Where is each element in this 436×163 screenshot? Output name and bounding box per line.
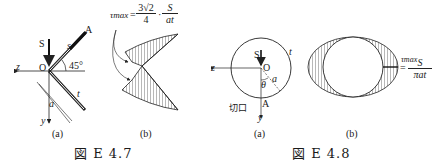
label-angle: 45° bbox=[69, 60, 83, 71]
formula-lhs: τmax bbox=[110, 10, 128, 20]
label-t: t bbox=[77, 88, 80, 99]
panel-label-48a: (a) bbox=[254, 128, 265, 139]
label-t: t bbox=[289, 46, 292, 57]
frac2-num: S bbox=[162, 2, 178, 14]
frac-den: πat bbox=[408, 69, 432, 80]
formula-dot: · bbox=[158, 9, 161, 20]
label-theta: θ bbox=[261, 79, 266, 90]
label-a: a bbox=[272, 73, 277, 84]
formula-frac1: 3√2 4 bbox=[136, 2, 156, 25]
fig47b-diagram bbox=[113, 30, 178, 110]
frac2-den: at bbox=[162, 14, 178, 25]
label-z: z bbox=[211, 62, 215, 73]
formula-frac2: S at bbox=[162, 2, 178, 25]
label-S: S bbox=[254, 49, 260, 60]
formula-eq: = bbox=[400, 62, 406, 73]
label-a: a bbox=[49, 98, 54, 109]
label-S: S bbox=[39, 38, 45, 49]
fig47a-diagram bbox=[18, 32, 86, 123]
label-y: y bbox=[258, 112, 262, 123]
formula-frac: S πat bbox=[408, 57, 432, 80]
formula-eq: = bbox=[130, 9, 136, 20]
panel-label-47b: (b) bbox=[140, 128, 152, 139]
panel-label-48b: (b) bbox=[346, 128, 358, 139]
label-A: A bbox=[262, 98, 269, 109]
fig48a-diagram bbox=[214, 38, 291, 118]
label-O: O bbox=[263, 62, 270, 73]
caption-fig48: 図 E 4.8 bbox=[292, 143, 350, 162]
panel-label-47a: (a) bbox=[52, 128, 63, 139]
label-A: A bbox=[85, 24, 92, 35]
frac1-num: 3√2 bbox=[136, 2, 156, 14]
label-z: z bbox=[16, 61, 20, 72]
frac-num: S bbox=[408, 57, 432, 69]
frac1-den: 4 bbox=[136, 14, 156, 25]
label-O: O bbox=[39, 62, 46, 73]
figure-canvas bbox=[0, 0, 436, 163]
label-y: y bbox=[41, 115, 45, 126]
label-cut: 切口 bbox=[229, 101, 247, 114]
fig48b-diagram bbox=[308, 37, 398, 97]
caption-fig47: 図 E 4.7 bbox=[74, 143, 132, 162]
label-s: s bbox=[67, 40, 71, 51]
